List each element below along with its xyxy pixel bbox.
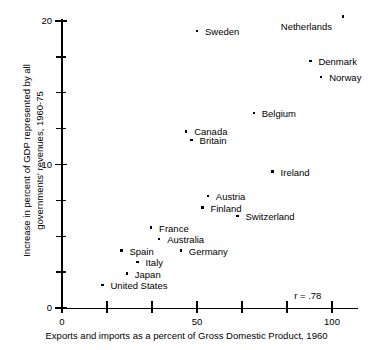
data-point-marker [136, 261, 138, 263]
data-point-label: Sweden [205, 27, 239, 37]
x-axis-tick [61, 301, 62, 313]
data-point-marker [342, 15, 344, 17]
data-point-label: Ireland [281, 168, 310, 178]
data-point-label: Germany [189, 247, 228, 257]
y-axis-tick-label: 0 [47, 302, 52, 313]
data-point-label: Spain [129, 247, 153, 257]
data-point-label: United States [111, 281, 168, 291]
x-axis-tick [286, 301, 287, 313]
y-axis-tick [56, 128, 66, 129]
data-point-label: Belgium [262, 109, 296, 119]
data-point-label: Norway [329, 73, 361, 83]
plot-area: 01020 050100 NetherlandsSwedenDenmarkNor… [0, 0, 373, 350]
data-point-label: Australia [167, 235, 204, 245]
x-axis-tick [106, 301, 107, 313]
data-point-marker [320, 76, 322, 78]
data-point-marker [253, 112, 255, 114]
data-point-label: Denmark [318, 57, 357, 67]
y-axis-title: Increase in percent of GDP represented b… [21, 48, 46, 273]
x-axis-tick [196, 301, 197, 313]
correlation-annotation: r = .78 [294, 290, 321, 301]
y-axis-tick [55, 20, 67, 21]
data-point-label: Switzerland [246, 212, 295, 222]
data-point-marker [207, 195, 209, 197]
x-axis-title: Exports and imports as a percent of Gros… [0, 330, 373, 341]
x-axis-tick [151, 301, 152, 313]
y-axis-tick [56, 236, 66, 237]
data-point-label: Finland [210, 204, 241, 214]
x-axis-tick [241, 301, 242, 313]
data-point-marker [201, 206, 203, 208]
data-point-marker [126, 272, 128, 274]
scatter-plot-figure: 01020 050100 NetherlandsSwedenDenmarkNor… [0, 0, 373, 350]
data-point-marker [196, 30, 198, 32]
data-point-label: Japan [135, 270, 161, 280]
data-point-label: Austria [216, 192, 246, 202]
y-axis-tick [56, 56, 66, 57]
data-point-marker [236, 215, 238, 217]
x-axis-tick-label: 50 [177, 316, 217, 327]
data-point-label: France [159, 224, 189, 234]
data-point-label: Britain [200, 136, 227, 146]
data-point-marker [271, 170, 273, 172]
data-point-marker [185, 130, 187, 132]
data-point-marker [190, 139, 192, 141]
y-axis-tick [56, 271, 66, 272]
x-axis-tick-label: 0 [42, 316, 82, 327]
data-point-marker [150, 226, 152, 228]
data-point-label: Italy [146, 258, 163, 268]
data-point-marker [309, 60, 311, 62]
data-point-marker [180, 249, 182, 251]
data-point-label: Netherlands [281, 22, 332, 32]
y-axis-tick [55, 164, 67, 165]
x-axis-tick [331, 301, 332, 313]
data-point-marker [101, 284, 103, 286]
y-axis-tick-label: 20 [41, 15, 52, 26]
data-point-marker [158, 238, 160, 240]
y-axis-tick [56, 92, 66, 93]
x-axis-tick-label: 100 [312, 316, 352, 327]
y-axis-tick [56, 200, 66, 201]
data-point-marker [120, 249, 122, 251]
